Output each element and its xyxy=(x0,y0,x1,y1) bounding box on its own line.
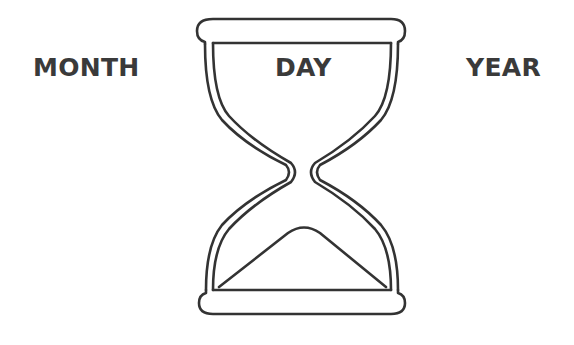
year-label: YEAR xyxy=(466,55,541,80)
hourglass-icon xyxy=(0,0,574,345)
hourglass-bottom-cap xyxy=(199,290,405,314)
sand-pile xyxy=(219,228,386,288)
month-label: MONTH xyxy=(33,55,140,80)
hourglass-top-cap xyxy=(197,19,405,44)
day-label: DAY xyxy=(275,55,332,80)
